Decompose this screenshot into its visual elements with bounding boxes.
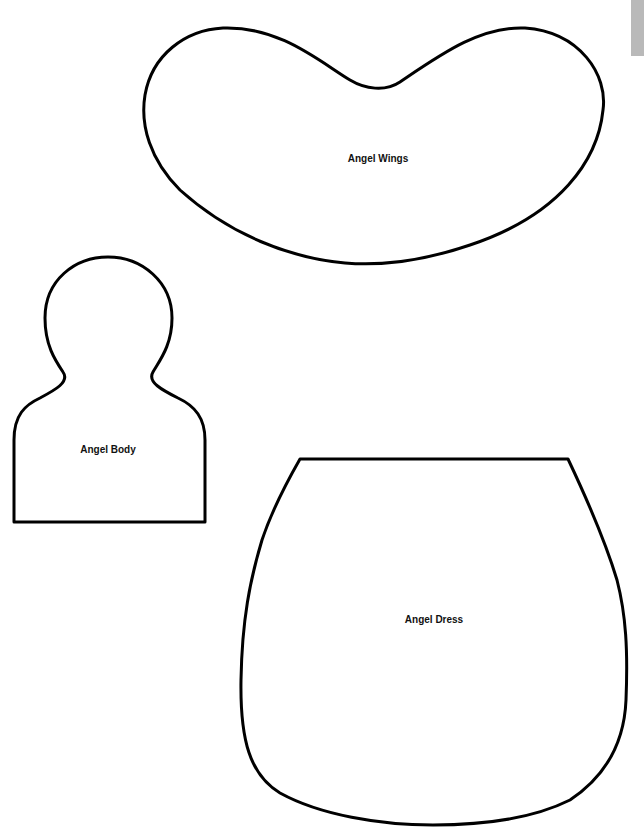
angel-dress-label: Angel Dress <box>405 614 463 625</box>
angel-wings-label: Angel Wings <box>348 153 408 164</box>
pattern-sheet <box>0 0 644 835</box>
angel-body-outline <box>14 257 205 522</box>
angel-dress-outline <box>241 459 627 825</box>
angel-wings-outline <box>144 28 604 264</box>
angel-body-label: Angel Body <box>80 444 136 455</box>
